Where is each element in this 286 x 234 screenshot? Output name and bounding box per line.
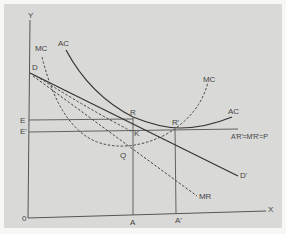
mc-left-label: MC (35, 45, 47, 53)
y-axis (28, 20, 30, 218)
point-a-label: A (130, 219, 135, 227)
mr-curve (33, 76, 197, 196)
line-e-r (29, 119, 133, 120)
demand-end-label: D' (240, 172, 247, 180)
mr-label: MR (199, 193, 211, 201)
ac-left-label: AC (58, 40, 69, 48)
point-r-label: R (130, 109, 136, 117)
ac-curve (66, 50, 232, 128)
mr-alt-curve (36, 76, 133, 132)
origin-label: 0 (22, 215, 26, 223)
economics-diagram (0, 0, 286, 234)
y-axis-label: Y (28, 12, 33, 20)
ac-right-label: AC (228, 108, 239, 116)
point-q-label: Q (120, 152, 126, 160)
x-axis-label: X (268, 206, 273, 214)
x-axis (28, 211, 266, 218)
point-a-prime-label: A' (175, 217, 181, 225)
point-e-label: E (20, 117, 25, 125)
vertical-a-prime (175, 129, 176, 213)
point-e-prime-label: E' (20, 128, 26, 136)
mc-right-label: MC (203, 76, 215, 84)
point-r-prime-label: R' (172, 119, 179, 127)
price-line-label: A'R'=M'R'=P (231, 133, 268, 140)
point-k-label: K (134, 130, 139, 138)
mc-curve (42, 57, 208, 146)
point-d-label: D (32, 64, 38, 72)
